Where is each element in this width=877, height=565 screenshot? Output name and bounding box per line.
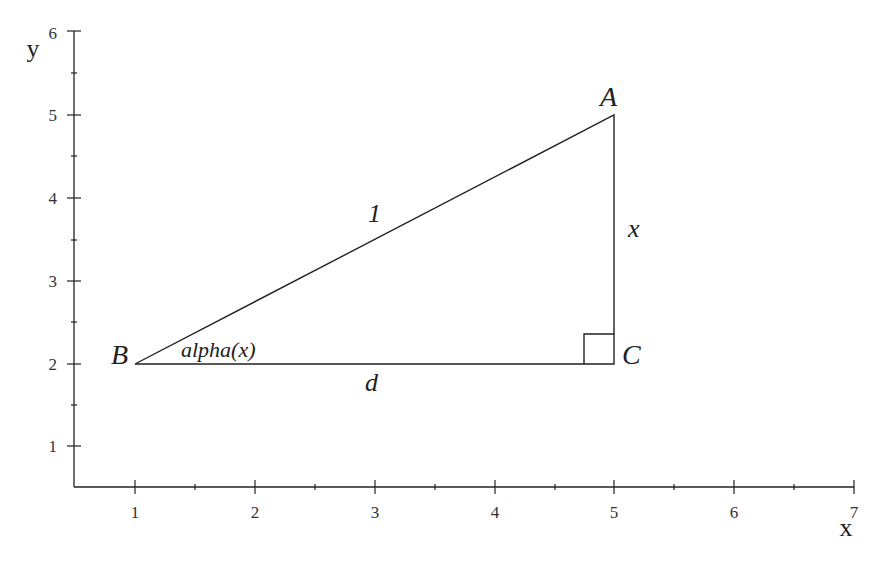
y-axis-label: y	[27, 34, 40, 63]
x-axis-label: x	[840, 513, 853, 542]
x-tick-label: 6	[730, 503, 739, 522]
angle-label: alpha(x)	[181, 337, 256, 362]
y-tick-label: 4	[49, 189, 58, 208]
vertex-label-a: A	[598, 81, 618, 112]
y-tick-label: 1	[49, 437, 58, 456]
edge-label-horizontal: d	[365, 368, 379, 397]
x-tick-label: 3	[371, 503, 380, 522]
y-tick-label: 6	[49, 24, 58, 43]
x-tick-label: 2	[251, 503, 260, 522]
x-tick-label: 5	[610, 503, 619, 522]
edge-label-hypotenuse: 1	[368, 199, 381, 228]
right-triangle	[135, 115, 614, 364]
vertex-label-b: B	[111, 339, 128, 370]
triangle-diagram: 1 2 3 4 5 6 7 1 2 3 4 5 6 x y A B C 1 x …	[0, 0, 877, 565]
vertex-label-c: C	[622, 339, 641, 370]
x-tick-label: 4	[491, 503, 500, 522]
y-tick-label: 5	[49, 106, 58, 125]
right-angle-marker	[584, 334, 614, 364]
y-tick-label: 3	[49, 272, 58, 291]
x-tick-label: 1	[131, 503, 140, 522]
edge-label-vertical: x	[627, 214, 640, 243]
y-tick-label: 2	[49, 355, 58, 374]
